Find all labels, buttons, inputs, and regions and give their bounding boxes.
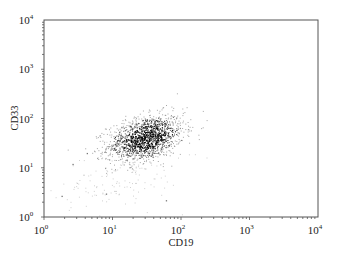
y-tick-label: 101	[19, 161, 34, 174]
scatter-chart: 100101102103104 100101102103104 CD19 CD3…	[0, 0, 337, 260]
y-axis-title: CD33	[9, 105, 20, 130]
x-tick-label: 101	[102, 223, 117, 236]
y-axis-ticks: 100101102103104	[19, 13, 44, 223]
y-tick-label: 103	[19, 62, 34, 75]
plot-frame	[44, 20, 318, 217]
series-0	[68, 93, 208, 192]
y-tick-label: 100	[19, 210, 34, 223]
x-axis-ticks: 100101102103104	[34, 217, 323, 236]
x-tick-label: 100	[34, 223, 49, 236]
x-tick-label: 104	[308, 223, 323, 236]
outlier-points	[61, 153, 167, 202]
x-tick-label: 102	[171, 223, 186, 236]
data-points	[51, 93, 208, 216]
x-tick-label: 103	[239, 223, 254, 236]
y-tick-label: 104	[19, 13, 34, 26]
x-axis-title: CD19	[168, 237, 193, 248]
y-tick-label: 102	[19, 112, 34, 125]
